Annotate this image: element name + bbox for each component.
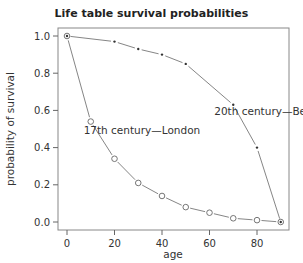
- y-tick-label: 1.0: [34, 31, 50, 42]
- series-segment: [142, 50, 159, 54]
- series-segment: [188, 66, 230, 102]
- line-chart: 0.00.20.40.60.81.0 020406080 20th centur…: [0, 0, 303, 263]
- series-segment: [190, 208, 205, 212]
- open-circle-marker: [254, 217, 260, 223]
- series-segment: [68, 40, 89, 117]
- x-tick-label: 0: [64, 238, 70, 249]
- open-circle-marker: [207, 210, 213, 216]
- open-circle-marker: [135, 180, 141, 186]
- series-segment: [165, 56, 182, 63]
- series-annotation: 17th century—London: [84, 124, 201, 136]
- series-segment: [142, 185, 158, 194]
- dot-marker: [137, 48, 139, 50]
- y-tick-label: 0.6: [34, 105, 50, 116]
- series-segment: [261, 220, 276, 221]
- annotations: 20th century—Berkeley17th century—London: [84, 105, 303, 136]
- series-segment: [166, 198, 182, 205]
- open-circle-marker: [183, 204, 189, 210]
- x-tick-label: 60: [203, 238, 216, 249]
- open-circle-marker: [159, 193, 165, 199]
- dot-marker: [66, 35, 68, 37]
- series-segment: [258, 151, 280, 219]
- series-segment: [238, 219, 253, 220]
- dot-marker: [256, 146, 258, 148]
- y-axis: 0.00.20.40.60.81.0: [34, 31, 58, 228]
- series-annotation: 20th century—Berkeley: [214, 105, 303, 117]
- x-axis-label: age: [163, 248, 183, 260]
- y-axis-label: probability of survival: [4, 72, 16, 186]
- x-axis: 020406080: [64, 230, 264, 249]
- series-segment: [214, 214, 229, 218]
- series-segment: [118, 43, 135, 48]
- dot-marker: [280, 221, 282, 223]
- y-tick-label: 0.2: [34, 179, 50, 190]
- y-tick-label: 0.4: [34, 142, 50, 153]
- open-circle-marker: [230, 215, 236, 221]
- open-circle-marker: [112, 156, 118, 162]
- x-tick-label: 20: [108, 238, 121, 249]
- dot-marker: [185, 63, 187, 65]
- series-segment: [118, 162, 135, 180]
- y-tick-label: 0.0: [34, 217, 50, 228]
- x-tick-label: 80: [251, 238, 264, 249]
- dot-marker: [113, 40, 115, 42]
- series-segment: [70, 36, 111, 41]
- dot-marker: [161, 53, 163, 55]
- y-tick-label: 0.8: [34, 68, 50, 79]
